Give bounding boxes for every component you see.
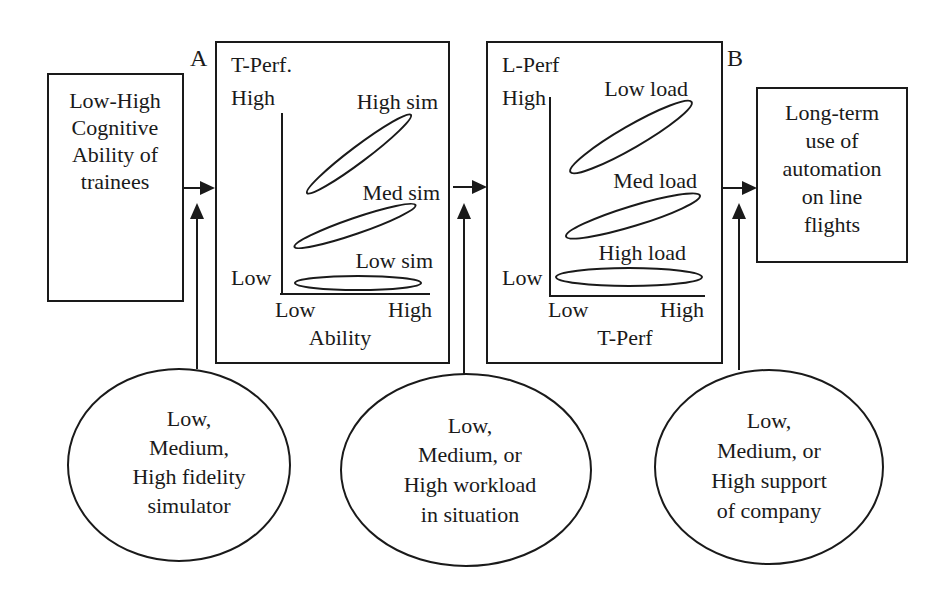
panel-a-y-title: T-Perf. xyxy=(231,52,292,77)
series-med-load: Med load xyxy=(563,168,703,246)
input-box-line-1: Low-High xyxy=(69,88,161,113)
series-label-high-load: High load xyxy=(599,240,686,265)
moderator-workload-line-1: Low, xyxy=(448,413,492,438)
panel-b-y-title: L-Perf xyxy=(502,52,560,77)
arrowhead-up-icon xyxy=(190,203,204,219)
ellipse-high-load xyxy=(556,268,702,286)
moderator-support-line-3: High support xyxy=(711,468,827,493)
arrow-workload-up xyxy=(457,203,471,374)
output-box-line-3: automation xyxy=(783,156,882,181)
output-box-line-4: on line xyxy=(802,184,863,209)
ellipse-med-sim xyxy=(292,198,418,255)
output-box-line-5: flights xyxy=(804,212,860,237)
arrowhead-right-icon xyxy=(200,181,215,195)
moderator-support-line-4: of company xyxy=(717,498,821,523)
series-label-low-load: Low load xyxy=(604,76,688,101)
panel-b-y-low: Low xyxy=(502,265,542,290)
arrow-panel-b-to-output xyxy=(722,181,757,195)
series-low-sim: Low sim xyxy=(295,248,433,290)
ellipse-low-sim xyxy=(295,276,421,290)
moderator-support-ellipse xyxy=(655,370,883,564)
input-box-line-3: Ability of xyxy=(72,142,159,167)
moderator-simulator-line-1: Low, xyxy=(167,406,211,431)
panel-a: T-Perf. High Low Low High Ability High s… xyxy=(216,42,449,363)
output-box: Long-term use of automation on line flig… xyxy=(757,88,907,262)
moderator-workload-ellipse xyxy=(341,374,591,566)
moderator-simulator: Low, Medium, High fidelity simulator xyxy=(68,369,290,561)
panel-b-x-title: T-Perf xyxy=(597,325,653,350)
panel-b-y-high: High xyxy=(502,85,546,110)
moderator-workload-line-3: High workload xyxy=(404,472,537,497)
diagram-canvas: Low-High Cognitive Ability of trainees A… xyxy=(0,0,949,599)
moderator-support-line-2: Medium, or xyxy=(717,438,822,463)
arrowhead-up-icon xyxy=(732,203,746,219)
arrow-input-to-panel-a xyxy=(183,181,215,195)
input-box: Low-High Cognitive Ability of trainees xyxy=(48,74,183,301)
arrowhead-right-icon xyxy=(742,181,757,195)
series-low-load: Low load xyxy=(565,76,697,182)
series-med-sim: Med sim xyxy=(292,180,440,254)
moderator-support: Low, Medium, or High support of company xyxy=(655,370,883,564)
marker-b: B xyxy=(727,45,743,71)
moderator-workload-line-2: Medium, or xyxy=(418,442,523,467)
panel-a-y-low: Low xyxy=(231,265,271,290)
series-label-med-load: Med load xyxy=(613,168,697,193)
input-box-line-2: Cognitive xyxy=(72,115,159,140)
moderator-support-line-1: Low, xyxy=(747,408,791,433)
marker-a: A xyxy=(190,45,208,71)
arrowhead-right-icon xyxy=(472,180,487,194)
diagram-svg: Low-High Cognitive Ability of trainees A… xyxy=(0,0,949,599)
moderator-simulator-line-3: High fidelity xyxy=(132,464,245,489)
output-box-line-2: use of xyxy=(805,128,859,153)
output-box-line-1: Long-term xyxy=(785,100,879,125)
arrow-support-up xyxy=(732,203,746,370)
series-label-high-sim: High sim xyxy=(357,89,438,114)
arrowhead-up-icon xyxy=(457,203,471,219)
arrow-simulator-up xyxy=(190,203,204,369)
panel-a-x-title: Ability xyxy=(309,325,371,350)
panel-a-y-high: High xyxy=(231,85,275,110)
moderator-simulator-line-4: simulator xyxy=(147,493,231,518)
panel-b-x-high: High xyxy=(660,297,704,322)
series-label-low-sim: Low sim xyxy=(355,248,433,273)
ellipse-med-load xyxy=(563,186,703,246)
input-box-line-4: trainees xyxy=(81,169,149,194)
arrow-panel-a-to-panel-b xyxy=(453,180,487,194)
moderator-workload: Low, Medium, or High workload in situati… xyxy=(341,374,591,566)
series-label-med-sim: Med sim xyxy=(362,180,440,205)
moderator-workload-line-4: in situation xyxy=(421,502,519,527)
series-high-load: High load xyxy=(556,240,702,286)
panel-b: L-Perf High Low Low High T-Perf Low load… xyxy=(487,42,722,363)
panel-a-x-low: Low xyxy=(275,297,315,322)
panel-a-x-high: High xyxy=(388,297,432,322)
panel-b-x-low: Low xyxy=(548,297,588,322)
moderator-simulator-line-2: Medium, xyxy=(149,435,229,460)
